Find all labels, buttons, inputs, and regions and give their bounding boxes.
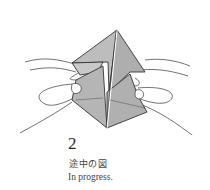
caption-english: In progress.: [68, 172, 113, 182]
left-hand: [20, 59, 80, 133]
origami-illustration: [0, 0, 210, 135]
caption-japanese: 途中の図: [69, 157, 107, 170]
step-number: 2: [68, 135, 77, 152]
folded-paper: [72, 30, 147, 128]
